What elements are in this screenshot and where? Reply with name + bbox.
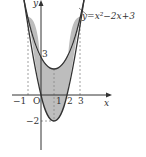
x-tick-neg1: −1 (13, 96, 26, 106)
x-axis-arrow-icon (106, 93, 112, 98)
x-tick-3: 3 (78, 96, 84, 106)
y-axis-arrow-icon (39, 0, 44, 6)
y-tick-neg2: −2 (26, 116, 39, 126)
y-tick-3: 3 (42, 49, 48, 59)
origin-label: O (33, 96, 40, 106)
x-axis-label: x (104, 98, 109, 108)
parabola-diagram: y=x²−2x+3 y x O −1 1 2 3 3 −2 (0, 0, 146, 157)
y-axis-label: y (32, 0, 39, 8)
curve-label: y=x²−2x+3 (81, 11, 135, 21)
x-tick-2: 2 (67, 96, 73, 106)
x-tick-1: 1 (56, 96, 62, 106)
